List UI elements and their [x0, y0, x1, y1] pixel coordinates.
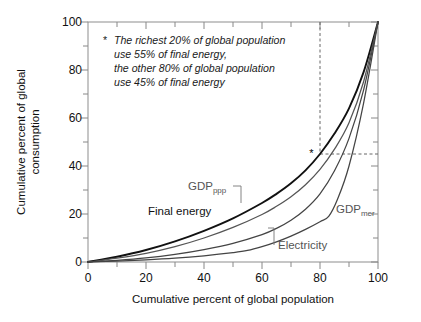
- note-line-4: use 45% of final energy: [114, 76, 225, 88]
- y-axis-title-line1: Cumulative percent of global: [15, 69, 27, 215]
- y-tick-label-80: 80: [69, 63, 83, 77]
- y-tick-label-60: 60: [69, 111, 83, 125]
- note-line-3: the other 80% of global population: [114, 62, 275, 74]
- series-label-gdp-mer: GDPmer: [336, 203, 375, 218]
- x-axis-title: Cumulative percent of global population: [132, 293, 334, 305]
- note-star: *: [103, 34, 107, 46]
- note-line-1: The richest 20% of global population: [114, 34, 285, 46]
- annotation-note: * The richest 20% of global population u…: [103, 34, 285, 88]
- reference-star-marker: *: [309, 147, 314, 159]
- y-axis-title-line2: consumption: [29, 109, 41, 174]
- x-tick-label-0: 0: [85, 271, 92, 285]
- series-label-electricity: Electricity: [268, 228, 327, 251]
- y-tick-label-40: 40: [69, 159, 83, 173]
- chart-container: 100 80 60 40 20 0 0 20 40 60 80 100 Cumu…: [0, 0, 421, 322]
- series-label-gdp-mer-text: GDPmer: [336, 203, 375, 218]
- x-axis-ticks-top: [117, 22, 349, 29]
- series-label-gdp-ppp-text: GDPppp: [188, 180, 227, 195]
- x-tick-label-100: 100: [368, 271, 388, 285]
- leader-line-gdp-ppp: [233, 186, 241, 203]
- y-tick-label-100: 100: [62, 15, 82, 29]
- y-tick-label-0: 0: [75, 255, 82, 269]
- x-tick-label-80: 80: [313, 271, 327, 285]
- series-label-electricity-text: Electricity: [278, 239, 327, 251]
- x-tick-label-20: 20: [139, 271, 153, 285]
- x-axis-ticks: [88, 262, 378, 269]
- series-label-gdp-ppp: GDPppp: [188, 180, 241, 203]
- y-axis-ticks: [81, 22, 88, 262]
- series-label-final-energy: Final energy: [148, 205, 212, 217]
- x-tick-label-40: 40: [197, 271, 211, 285]
- y-axis-tick-labels: 100 80 60 40 20 0: [62, 15, 82, 269]
- note-line-2: use 55% of final energy,: [114, 48, 227, 60]
- x-tick-label-60: 60: [255, 271, 269, 285]
- series-label-final-energy-text: Final energy: [148, 205, 212, 217]
- x-axis-tick-labels: 0 20 40 60 80 100: [85, 271, 389, 285]
- lorenz-curve-chart: 100 80 60 40 20 0 0 20 40 60 80 100 Cumu…: [0, 0, 421, 322]
- y-tick-label-20: 20: [69, 207, 83, 221]
